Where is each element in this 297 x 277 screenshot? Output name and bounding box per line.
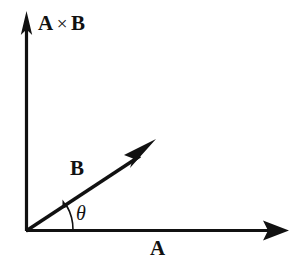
- diagram-canvas: [0, 0, 297, 277]
- vertical-axis-label: A×B: [38, 13, 85, 34]
- label-vector-a-top: A: [38, 11, 54, 35]
- horizontal-axis-label: A: [150, 238, 165, 259]
- cross-product-operator-icon: ×: [54, 13, 71, 34]
- angle-arc: [67, 206, 74, 231]
- angle-label-theta: θ: [76, 203, 86, 223]
- label-vector-b-top: B: [71, 11, 86, 35]
- vector-b-label: B: [70, 158, 84, 179]
- vector-diagram: A×B B A θ: [0, 0, 297, 277]
